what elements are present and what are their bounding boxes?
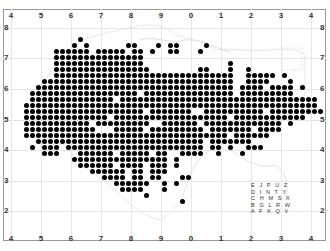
record-dot [66,85,71,90]
record-dot [120,55,125,60]
x-axis-label: 4 [306,11,316,20]
record-dot [102,139,107,144]
record-dot [60,97,65,102]
record-dot [288,109,293,114]
record-dot [126,43,131,48]
record-dot [144,73,149,78]
record-dot [24,109,29,114]
record-dot [66,103,71,108]
record-dot [144,193,149,198]
record-dot [246,103,251,108]
record-dot [294,103,299,108]
record-dot [84,91,89,96]
record-dot [126,115,131,120]
record-dot [36,85,41,90]
record-dot [150,97,155,102]
record-dot [174,181,179,186]
record-dot [168,91,173,96]
record-dot [138,49,143,54]
record-dot [66,73,71,78]
record-dot [150,49,155,54]
record-dot [150,157,155,162]
record-dot [126,157,131,162]
record-dot [246,73,251,78]
record-dot [36,97,41,102]
record-dot [126,121,131,126]
record-dot [132,163,137,168]
record-dot [282,103,287,108]
record-dot [102,97,107,102]
record-dot [120,133,125,138]
y-axis-label: 7 [320,54,324,62]
record-dot [312,109,317,114]
record-dot [210,97,215,102]
record-dot [180,115,185,120]
record-dot [48,109,53,114]
record-dot [78,67,83,72]
record-dot [90,139,95,144]
record-dot [180,79,185,84]
y-axis-label: 6 [4,85,8,93]
record-dot [126,127,131,132]
record-dot [120,61,125,66]
record-dot [258,133,263,138]
record-dot [306,103,311,108]
record-dot [132,49,137,54]
record-dot [156,79,161,84]
record-dot [210,91,215,96]
record-dot [60,73,65,78]
record-dot [216,151,221,156]
record-dot [96,169,101,174]
x-axis-label: 0 [186,234,196,243]
record-dot [204,91,209,96]
record-dot [252,91,257,96]
record-dot [36,121,41,126]
record-dot [126,133,131,138]
record-dot [222,109,227,114]
record-dot [72,133,77,138]
record-dot [42,91,47,96]
record-dot [90,109,95,114]
record-dot [258,127,263,132]
record-dot [132,85,137,90]
record-dot [96,97,101,102]
record-dot [198,139,203,144]
record-dot [126,97,131,102]
record-dot [66,61,71,66]
record-dot [198,85,203,90]
record-dot [72,115,77,120]
record-dot [66,109,71,114]
record-dot [258,79,263,84]
record-dot [114,121,119,126]
record-dot [108,91,113,96]
record-dot [270,115,275,120]
record-dot [186,97,191,102]
record-dot [84,121,89,126]
record-dot [240,91,245,96]
record-dot [270,97,275,102]
x-axis-label: 7 [96,11,106,20]
record-dot [222,115,227,120]
record-dot [144,67,149,72]
record-dot [222,127,227,132]
record-dot [138,133,143,138]
record-dot [72,157,77,162]
record-dot [258,91,263,96]
record-dot [150,169,155,174]
record-dot [120,145,125,150]
record-dot [204,115,209,120]
record-dot [48,139,53,144]
record-dot [156,139,161,144]
record-dot [174,43,179,48]
record-dot [264,73,269,78]
record-dot [30,91,35,96]
record-dot [162,157,167,162]
record-dot [228,139,233,144]
record-dot [114,91,119,96]
record-dot [216,145,221,150]
record-dot [72,85,77,90]
record-dot [90,157,95,162]
record-dot [138,139,143,144]
record-dot [42,103,47,108]
record-dot [84,85,89,90]
